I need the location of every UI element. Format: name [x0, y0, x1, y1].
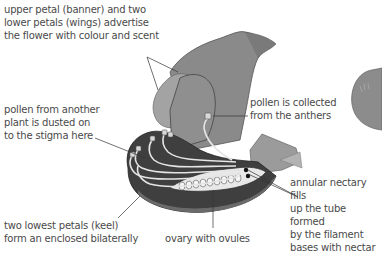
label-ovary: ovary with ovules: [165, 232, 250, 245]
label-keel: two lowest petals (keel) form an enclose…: [4, 219, 138, 245]
label-nectary: annular nectary fills up the tube formed…: [290, 176, 382, 254]
label-pollen-stigma: pollen from another plant is dusted on t…: [4, 103, 99, 142]
nectary-dot: [244, 168, 248, 172]
partial-flower-right: [352, 68, 382, 130]
label-banner-wings: upper petal (banner) and two lower petal…: [4, 3, 159, 42]
label-pollen-collected: pollen is collected from the anthers: [250, 96, 336, 122]
